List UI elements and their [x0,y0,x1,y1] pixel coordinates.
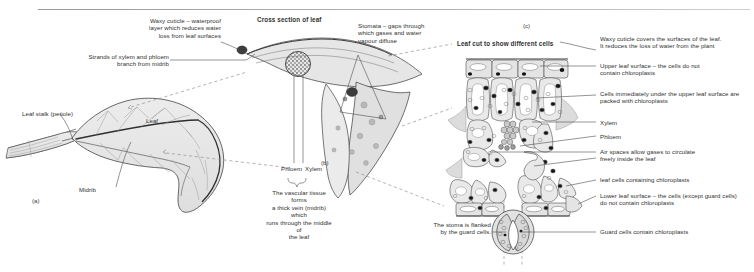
label-xylem-c: Xylem [600,119,617,126]
panel-b-cross-section [170,38,422,198]
label-air-spaces: Air spaces allow gases to circulate free… [600,148,750,163]
panel-c-cell-detail [446,59,582,216]
label-stomata: Stomata – gaps through which gases and w… [358,22,448,44]
label-stoma-flanked: The stoma is flanked by the guard cells. [406,221,491,236]
label-waxy-cuticle-c: Waxy cuticle covers the surfaces of the … [600,35,754,50]
label-lower-leaf-surface: Lower leaf surface – the cells (except g… [600,192,754,207]
title-leaf-cut-to-show-different-cells: Leaf cut to show different cells [457,40,553,47]
magnify-dashed-b-to-c [356,44,452,206]
label-midrib: Midrib [79,186,96,193]
lower-epidermis-row [456,203,570,216]
title-cross-section-of-leaf: Cross section of leaf [257,16,322,23]
spongy-lower-left [450,180,506,204]
top-divider-rule [38,9,750,10]
label-waxy-cuticle-b: Waxy cuticle – waterproof layer which re… [121,17,221,39]
label-leaf: Leaf [146,117,158,124]
label-guard-cells: Guard cells contain chloroplasts [600,228,750,235]
label-xylem-b: Xylem [305,165,322,172]
label-xylem-phloem-strands: Strands of xylem and phloem branch from … [36,53,169,68]
chloroplasts-palisade [468,84,562,114]
stoma-detail-diagram [492,210,534,254]
midrib-vascular-bundle [286,52,311,77]
label-palisade-cells: Cells immediately under the upper leaf s… [600,90,754,105]
label-phloem-b: Phloem [281,165,302,172]
spongy-mesophyll [463,119,553,167]
upper-epidermis-row [466,60,568,78]
panel-b-id: (b) [321,159,328,166]
label-upper-leaf-surface: Upper leaf surface – the cells do not co… [600,62,750,77]
label-leaf-stalk: Leaf stalk (petiole) [22,110,73,117]
phloem-xylem-brace [288,178,306,187]
xylem-cluster [501,121,519,145]
label-leaf-cells-chloroplasts: leaf cells containing chloroplasts [600,176,750,183]
nuclei-upper-epidermis [468,68,564,76]
phloem-xylem-leaders [294,76,303,163]
panel-c-id: (c) [523,22,530,29]
panel-a-id: (a) [32,197,39,204]
panel-c-leader-lines [492,42,596,232]
palisade-mesophyll [467,78,562,121]
stoma-cut-dashed-guides [504,200,522,265]
phloem-cluster [499,145,516,151]
stomata-pointer-lines [340,55,386,119]
spongy-lower-right [518,176,576,204]
label-phloem-c: Phloem [600,133,621,140]
panel-a-leader-lines [60,114,131,187]
figure-canvas: Leaf stalk (petiole) Midrib Leaf (a) Wax… [0,0,754,272]
label-vascular-tissue: The vascular tissue forms a thick vein (… [266,189,332,241]
